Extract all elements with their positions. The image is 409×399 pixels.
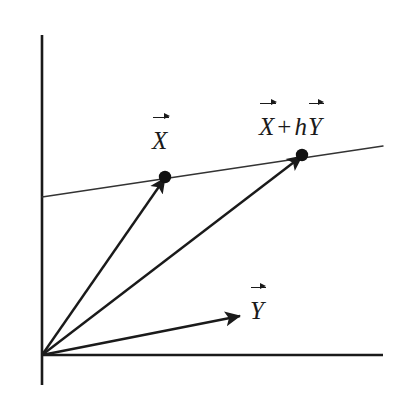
label-vector-y-symbol: Y: [250, 297, 264, 323]
point-x-plus-hy-dot: [296, 149, 308, 161]
label-x-plus-hy-symbol-y: Y: [308, 113, 322, 139]
affine-line: [42, 146, 383, 197]
label-vector-x-symbol: X: [152, 127, 167, 153]
label-vector-x: X: [152, 127, 167, 153]
label-x-plus-hy-symbol-x: X: [259, 113, 274, 139]
vector-diagram-figure: X X+hY Y: [0, 0, 409, 399]
vector-y-arrow: [42, 316, 240, 355]
label-vector-x-plus-hy: X+hY: [259, 113, 322, 139]
label-x-plus-hy-operator: +: [274, 114, 294, 139]
axes-group: [42, 35, 383, 385]
label-x-plus-hy-scalar: h: [294, 114, 308, 139]
point-x-dot: [159, 171, 171, 183]
vectors-group: [42, 156, 302, 355]
points-group: [159, 149, 308, 183]
diagram-canvas: [0, 0, 409, 399]
vector-x-plus-hy-arrow: [42, 156, 302, 355]
label-vector-y: Y: [250, 297, 264, 323]
vector-x-arrow: [42, 178, 165, 355]
